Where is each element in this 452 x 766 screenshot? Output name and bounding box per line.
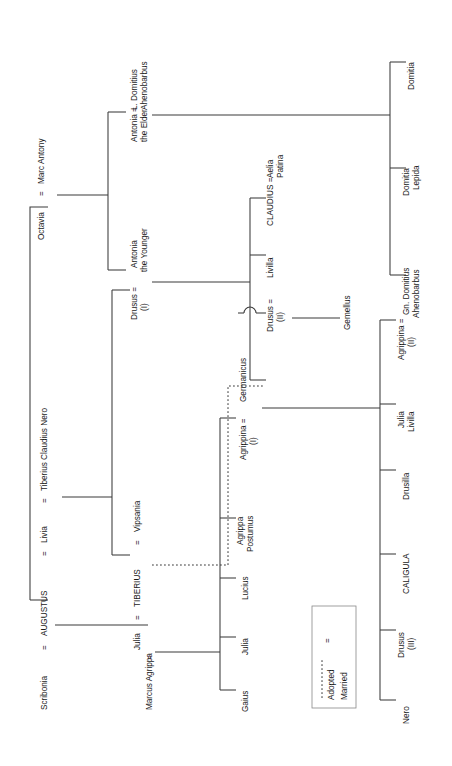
label-antonia-younger-line1: Antonia bbox=[130, 240, 139, 268]
label-drusus-ii-line2: (II) bbox=[276, 312, 285, 322]
label-scribonia: Scribonia bbox=[40, 675, 49, 710]
label-l-domitius-line1: L. Domitius bbox=[130, 69, 139, 110]
legend-married-label: Married bbox=[340, 672, 349, 700]
label-octavia: Octavia bbox=[37, 212, 46, 240]
label-agrippina-ii-line2: (II) bbox=[407, 337, 416, 347]
label-aelia-patina-line2: Patina bbox=[276, 154, 285, 178]
label-aelia-patina-line1: Aelia bbox=[266, 159, 275, 178]
label-drusilla: Drusilla bbox=[402, 472, 411, 500]
label-caligula: CALIGULA bbox=[402, 553, 411, 594]
label-domitia-lepida-line1: Domitia bbox=[402, 168, 411, 196]
label-drusus-i-line2: (I) bbox=[140, 303, 149, 311]
label-drusus-ii-line1: Drusus = bbox=[266, 299, 275, 332]
label-agrippina-i-line2: (I) bbox=[249, 437, 258, 445]
family-tree-diagram: Scribonia = AUGUSTUS = Livia = Tiberius … bbox=[0, 0, 452, 766]
label-marriage-eq-5: = bbox=[133, 615, 142, 620]
label-marc-antony: Marc Antony bbox=[37, 138, 46, 184]
label-antonia-elder-line2: the Elder bbox=[140, 109, 149, 142]
label-drusus-iii-line2: (III) bbox=[407, 637, 416, 650]
label-nero: Nero bbox=[402, 706, 411, 724]
label-livia: Livia bbox=[40, 526, 49, 543]
label-julia-livilla-line1: Julia bbox=[397, 411, 406, 428]
label-gemellus: Gemellus bbox=[343, 295, 352, 330]
label-augustus: AUGUSTUS bbox=[40, 590, 49, 636]
label-agrippa-postumus-line2: Postumus bbox=[246, 516, 255, 552]
label-marriage-eq-1: = bbox=[40, 645, 49, 650]
label-livilla: Livilla bbox=[266, 257, 275, 278]
label-l-domitius-line2: Ahenobarbus bbox=[140, 61, 149, 110]
label-marriage-eq-3: = bbox=[40, 498, 49, 503]
label-drusus-iii-line1: Drusus bbox=[397, 632, 406, 658]
label-domitia: Domitia bbox=[407, 62, 416, 90]
label-gaius: Gaius bbox=[241, 691, 250, 712]
label-julia-wife: Julia bbox=[133, 633, 142, 650]
label-marriage-eq-2: = bbox=[40, 551, 49, 556]
label-drusus-i-line1: Drusus = bbox=[130, 287, 139, 320]
label-julia-daughter: Julia bbox=[241, 638, 250, 655]
label-agrippa-postumus-line1: Agrippa bbox=[236, 516, 245, 545]
label-marriage-eq-6: = bbox=[133, 540, 142, 545]
label-tiberius: TIBERIUS bbox=[133, 569, 142, 607]
legend-married-symbol: = bbox=[323, 638, 332, 643]
label-domitia-lepida-line2: Lepida bbox=[412, 165, 421, 190]
tree-canvas: Scribonia = AUGUSTUS = Livia = Tiberius … bbox=[0, 0, 452, 766]
label-marcus-agrippa: Marcus Agrippa bbox=[145, 653, 154, 710]
label-germanicus: Germanicus bbox=[239, 358, 248, 402]
label-marriage-eq-7: = bbox=[145, 655, 154, 660]
connector-lines bbox=[30, 62, 406, 700]
label-agrippina-ii-line1: Agrippina = bbox=[397, 318, 406, 360]
label-claudius: CLAUDIUS = bbox=[266, 177, 275, 226]
label-gn-domitius-line2: Ahenobarbus bbox=[412, 269, 421, 318]
label-julia-livilla-line2: Livilla bbox=[407, 411, 416, 432]
legend-adopted-label: Adopted bbox=[327, 669, 336, 700]
label-marriage-eq-4: = bbox=[37, 191, 46, 196]
label-lucius: Lucius bbox=[241, 576, 250, 600]
label-vipsania: Vipsania bbox=[133, 500, 142, 532]
legend: Adopted = Married bbox=[312, 606, 356, 708]
label-antonia-elder-line1: Antonia = bbox=[130, 107, 139, 142]
label-tiberius-claudius-nero: Tiberius Claudius Nero bbox=[40, 408, 49, 491]
label-gn-domitius-line1: Gn. Domitius bbox=[402, 268, 411, 315]
label-antonia-younger-line2: the Younger bbox=[140, 228, 149, 272]
label-agrippina-i-line1: Agrippina = bbox=[239, 418, 248, 460]
